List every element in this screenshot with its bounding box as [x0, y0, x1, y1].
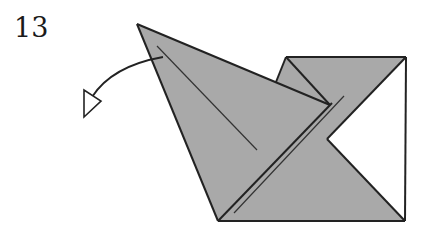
fold-arrow	[84, 57, 163, 117]
origami-diagram	[0, 0, 423, 250]
hollow-triangle-arrowhead-icon	[84, 90, 101, 117]
